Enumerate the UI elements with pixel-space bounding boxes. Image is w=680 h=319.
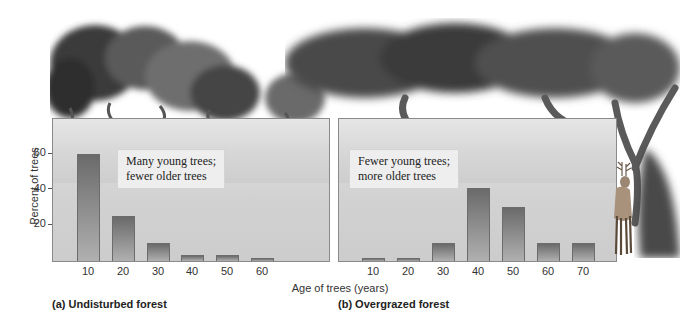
bar-age-70 xyxy=(572,243,595,261)
bar-age-50 xyxy=(502,207,525,261)
x-tick-b-50: 50 xyxy=(498,265,528,277)
x-tick-a-50: 50 xyxy=(212,265,242,277)
y-tick-20: 20 xyxy=(26,217,46,229)
bar-age-20 xyxy=(397,258,420,261)
caption-undisturbed-forest: (a) Undisturbed forest xyxy=(52,298,167,310)
bar-age-50 xyxy=(216,255,239,261)
x-axis-label: Age of trees (years) xyxy=(0,282,680,294)
bar-age-20 xyxy=(112,216,135,261)
bar-age-30 xyxy=(432,243,455,261)
x-tick-a-40: 40 xyxy=(177,265,207,277)
bar-age-10 xyxy=(77,154,100,261)
caption-overgrazed-forest: (b) Overgrazed forest xyxy=(338,298,449,310)
bar-age-40 xyxy=(181,255,204,261)
overgrazed-forest-chart: Fewer young trees; more older trees xyxy=(338,118,617,262)
y-tick-40: 40 xyxy=(26,182,46,194)
x-tick-b-40: 40 xyxy=(463,265,493,277)
bar-age-30 xyxy=(147,243,170,261)
x-tick-a-60: 60 xyxy=(247,265,277,277)
bar-age-60 xyxy=(251,258,274,261)
y-tick-60: 60 xyxy=(26,146,46,158)
x-tick-a-10: 10 xyxy=(73,265,103,277)
bar-age-10 xyxy=(362,258,385,261)
x-tick-b-60: 60 xyxy=(533,265,563,277)
bar-age-40 xyxy=(467,188,490,261)
annotation-overgrazed: Fewer young trees; more older trees xyxy=(349,149,459,189)
x-tick-b-70: 70 xyxy=(568,265,598,277)
x-tick-a-20: 20 xyxy=(108,265,138,277)
bar-age-60 xyxy=(537,243,560,261)
x-tick-b-10: 10 xyxy=(358,265,388,277)
x-tick-a-30: 30 xyxy=(143,265,173,277)
deer-icon xyxy=(606,160,638,258)
x-tick-b-30: 30 xyxy=(428,265,458,277)
annotation-undisturbed: Many young trees; fewer older trees xyxy=(117,149,225,189)
undisturbed-forest-chart: Many young trees; fewer older trees xyxy=(52,118,330,262)
x-tick-b-20: 20 xyxy=(393,265,423,277)
